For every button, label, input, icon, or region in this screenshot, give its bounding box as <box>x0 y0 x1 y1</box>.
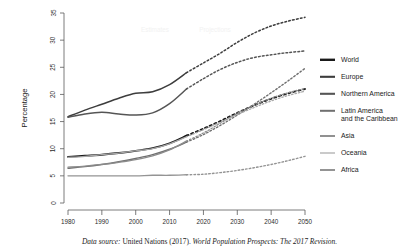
legend-label-1[interactable]: Europe <box>341 73 363 81</box>
x-tick-label: 1980 <box>61 218 76 225</box>
chart-legend: WorldEuropeNorthern AmericaLatin America… <box>320 56 398 173</box>
y-tick-label: 30 <box>50 36 57 44</box>
series-line-estimates-2 <box>68 89 187 117</box>
figure: Estimates Projections 05101520253035 Per… <box>0 0 419 250</box>
series-line-projection-6 <box>187 156 306 174</box>
legend-label-5[interactable]: Oceania <box>341 149 367 156</box>
y-axis: 05101520253035 Percentage <box>20 9 64 205</box>
series-group <box>68 17 305 176</box>
y-tick-label: 25 <box>50 63 57 71</box>
x-tick-label: 2030 <box>230 218 245 225</box>
y-tick-label: 15 <box>50 118 57 126</box>
legend-label-6[interactable]: Africa <box>341 166 359 173</box>
estimates-label: Estimates <box>141 26 169 33</box>
caption-source-label: Data source: <box>82 237 121 246</box>
x-tick-label: 2020 <box>196 218 211 225</box>
figure-caption: Data source: United Nations (2017). Worl… <box>0 237 419 246</box>
projections-label: Projections <box>199 26 231 34</box>
legend-label-2[interactable]: Northern America <box>341 90 395 97</box>
x-tick-group: 19801990200020102020203020402050 <box>61 210 313 225</box>
series-line-projection-2 <box>187 51 306 89</box>
y-tick-label: 35 <box>50 9 57 17</box>
chart-plot: Estimates Projections 05101520253035 Per… <box>0 0 419 250</box>
legend-label-3[interactable]: Latin America <box>341 107 383 114</box>
y-tick-label: 5 <box>50 174 57 178</box>
legend-label-4[interactable]: Asia <box>341 132 355 139</box>
x-tick-label: 2010 <box>163 218 178 225</box>
x-tick-label: 2040 <box>264 218 279 225</box>
y-tick-label: 0 <box>50 201 57 205</box>
caption-work-title: World Population Prospects: The 2017 Rev… <box>193 237 337 246</box>
series-line-estimates-6 <box>68 175 187 176</box>
series-line-estimates-5 <box>68 137 187 158</box>
y-tick-label: 20 <box>50 90 57 98</box>
series-line-projection-3 <box>187 68 306 142</box>
legend-label-3[interactable]: and the Caribbean <box>341 115 398 122</box>
x-axis: 19801990200020102020203020402050 <box>61 210 313 225</box>
series-line-estimates-1 <box>68 73 187 117</box>
series-line-estimates-4 <box>68 141 187 167</box>
y-tick-group: 05101520253035 <box>50 9 65 205</box>
x-tick-label: 1990 <box>95 218 110 225</box>
band-annotations: Estimates Projections <box>141 26 231 34</box>
y-tick-label: 10 <box>50 145 57 153</box>
series-line-projection-4 <box>187 88 306 141</box>
y-axis-title: Percentage <box>20 89 29 128</box>
series-line-projection-5 <box>187 91 306 137</box>
x-tick-label: 2050 <box>298 218 313 225</box>
series-line-projection-0 <box>187 89 306 136</box>
legend-label-0[interactable]: World <box>341 56 359 63</box>
x-tick-label: 2000 <box>129 218 144 225</box>
caption-body: United Nations (2017). <box>121 237 193 246</box>
series-line-estimates-0 <box>68 136 187 157</box>
